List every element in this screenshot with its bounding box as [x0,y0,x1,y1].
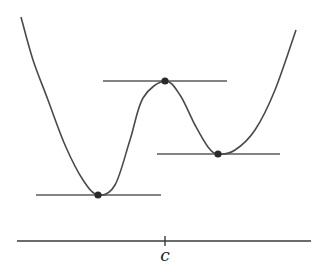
local-max-point [161,77,168,84]
tick-label-c: c [160,245,170,265]
local-min-right-point [214,150,221,157]
function-curve [21,17,296,195]
tangent-lines [36,81,280,195]
local-min-left-point [94,191,101,198]
function-graph-diagram: c [0,0,316,266]
